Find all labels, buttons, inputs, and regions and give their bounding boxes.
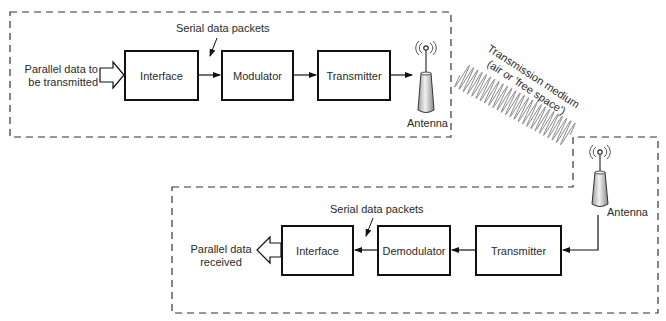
block-label: Transmitter — [491, 245, 546, 257]
parallel-input-label-line2: be transmitted — [18, 76, 98, 89]
block-interface-tx: Interface — [124, 50, 199, 101]
block-label: Demodulator — [383, 245, 446, 257]
block-modulator: Modulator — [221, 50, 294, 101]
block-demodulator: Demodulator — [377, 225, 451, 276]
antenna-label-rx: Antenna — [607, 206, 648, 219]
parallel-input-arrow-icon — [100, 62, 124, 88]
rx-feed-line — [563, 215, 598, 250]
parallel-output-label-line1: Parallel data — [186, 243, 256, 256]
serial-pointer-arrow-tx — [210, 38, 217, 56]
antenna-icon-rx — [590, 145, 611, 207]
serial-data-label-tx: Serial data packets — [176, 22, 270, 35]
parallel-output-label-line2: received — [186, 256, 256, 269]
block-label: Modulator — [233, 70, 282, 82]
block-label: Interface — [296, 245, 339, 257]
antenna-label-tx: Antenna — [407, 117, 448, 130]
antenna-icon-tx — [416, 41, 437, 113]
parallel-output-arrow-icon — [257, 237, 281, 263]
block-transmitter-tx: Transmitter — [317, 50, 391, 101]
parallel-output-label: Parallel data received — [186, 243, 256, 269]
block-label: Interface — [140, 70, 183, 82]
block-interface-rx: Interface — [281, 225, 354, 276]
block-transmitter-rx: Transmitter — [475, 225, 562, 276]
parallel-input-label-line1: Parallel data to — [18, 63, 98, 76]
parallel-input-label: Parallel data to be transmitted — [18, 63, 98, 89]
serial-pointer-arrow-rx — [366, 218, 373, 236]
block-label: Transmitter — [326, 70, 381, 82]
serial-data-label-rx: Serial data packets — [330, 203, 424, 216]
